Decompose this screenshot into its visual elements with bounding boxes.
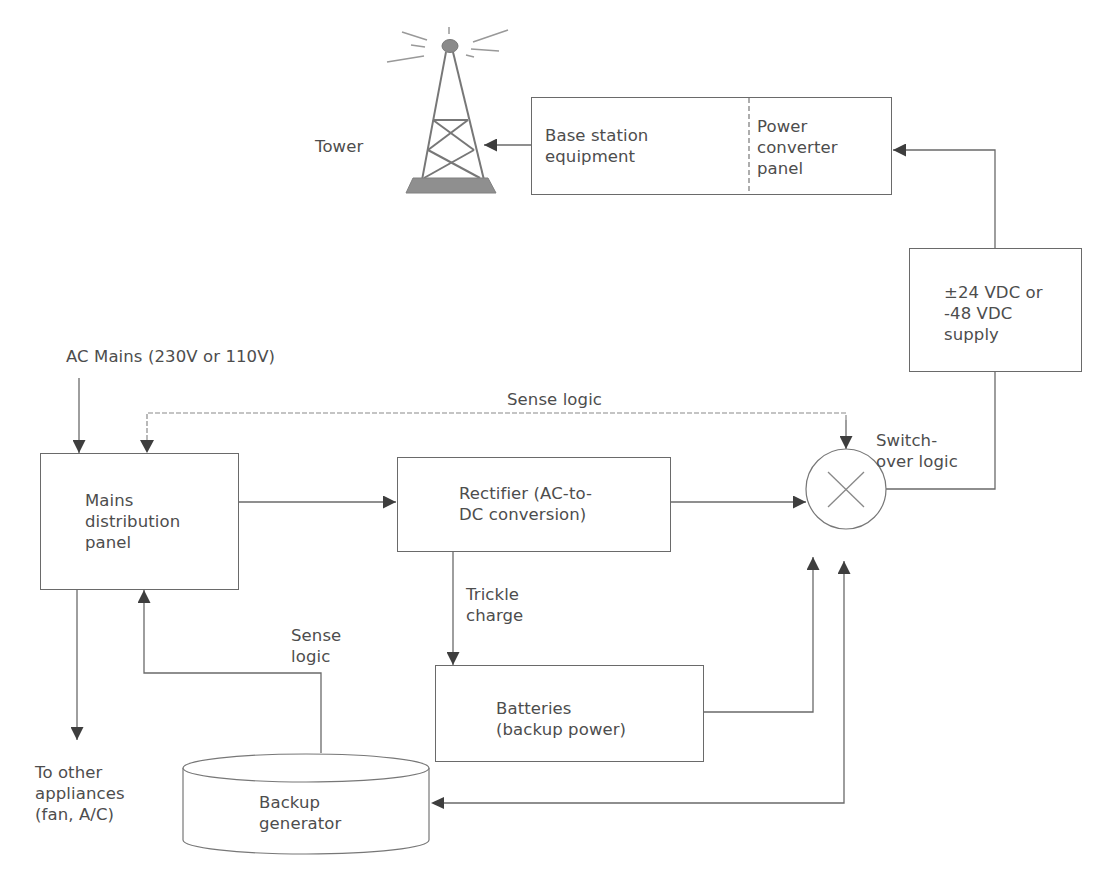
sense-logic-generator-label: Sense logic [291,625,341,667]
switchover-label: Switch- over logic [876,430,958,472]
arrow-sense-into-mains [140,440,154,453]
arrow-into-generator [431,797,444,809]
edge-supply-to-converter [893,150,995,248]
ac-mains-label: AC Mains (230V or 110V) [66,346,275,367]
radio-tower-icon [387,27,508,193]
edge-sense-logic-top [147,413,846,440]
rectifier-label: Rectifier (AC-to- DC conversion) [459,483,592,525]
sense-logic-top-label: Sense logic [507,389,602,410]
switchover-node[interactable] [806,449,886,529]
dc-supply-label: ±24 VDC or -48 VDC supply [944,282,1043,345]
edge-batteries-to-switch [703,557,813,712]
mains-panel-label: Mains distribution panel [85,490,180,553]
other-appliances-label: To other appliances (fan, A/C) [35,762,125,825]
generator-label: Backup generator [259,792,341,834]
edge-generator-sense [144,590,321,753]
batteries-label: Batteries (backup power) [496,698,626,740]
power-converter-label: Power converter panel [757,116,838,179]
tower-label: Tower [315,136,363,157]
trickle-charge-label: Trickle charge [466,584,523,626]
base-station-label: Base station equipment [545,125,648,167]
